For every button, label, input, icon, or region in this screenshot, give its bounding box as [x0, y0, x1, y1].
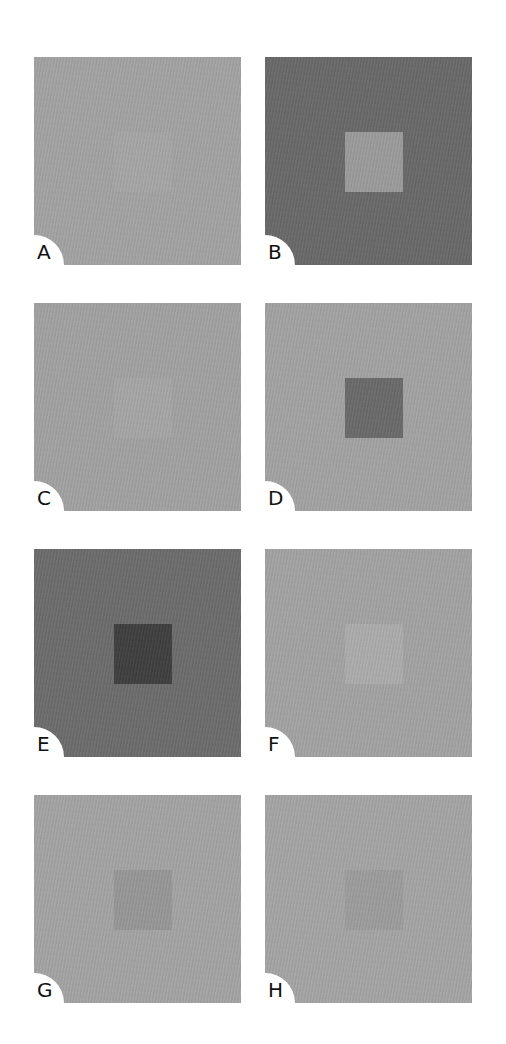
center-square: [114, 132, 172, 192]
panel-b: B: [265, 57, 472, 265]
panel-g: G: [34, 795, 241, 1003]
panel-label: D: [268, 488, 283, 508]
panel-label: G: [37, 980, 53, 1000]
panel-h: H: [265, 795, 472, 1003]
center-square: [345, 624, 403, 684]
panel-d: D: [265, 303, 472, 511]
panel-label: H: [268, 980, 283, 1000]
panel-grid: A B C D E F G H: [34, 57, 472, 1003]
center-square: [345, 132, 403, 192]
center-square: [114, 378, 172, 438]
center-square: [114, 870, 172, 930]
center-square: [114, 624, 172, 684]
panel-e: E: [34, 549, 241, 757]
center-square: [345, 870, 403, 930]
panel-a: A: [34, 57, 241, 265]
panel-label: C: [37, 488, 51, 508]
panel-label: B: [268, 242, 282, 262]
panel-label: A: [37, 242, 51, 262]
panel-f: F: [265, 549, 472, 757]
panel-label: E: [37, 734, 50, 754]
panel-label: F: [268, 734, 280, 754]
center-square: [345, 378, 403, 438]
panel-c: C: [34, 303, 241, 511]
